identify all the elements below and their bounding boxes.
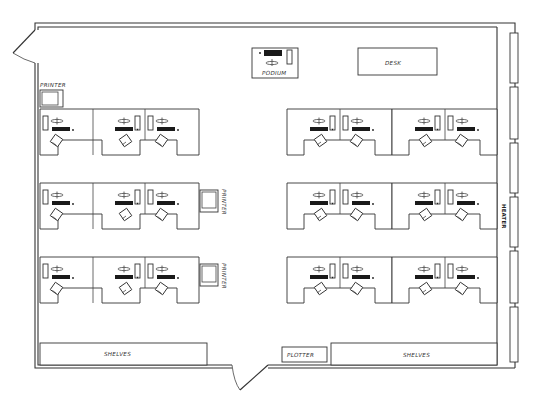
workstation-pod-right-row-3a — [287, 257, 392, 303]
workstation-pod-right-row-2a — [287, 183, 392, 229]
workstation-pod-left-row-1 — [40, 109, 199, 155]
printer-middle-2: PRINTER — [200, 263, 227, 289]
workstation-pod-right-row-1a — [287, 109, 392, 155]
workstation-pod-right-row-3b — [392, 257, 497, 303]
printer-label: PRINTER — [221, 189, 227, 215]
plotter-label: PLOTTER — [287, 352, 314, 358]
heater-label: HEATER — [501, 204, 507, 229]
workstation-pod-right-row-2b — [392, 183, 497, 229]
door-bottom[interactable] — [232, 365, 268, 390]
printer-label: PRINTER — [221, 263, 227, 289]
workstation-pod-left-row-2 — [40, 183, 199, 229]
desk-label: DESK — [385, 60, 402, 66]
workstation-pod-right-row-1b — [392, 109, 497, 155]
right-wall-windows — [510, 33, 518, 362]
shelves-left: SHELVES — [40, 343, 207, 365]
door-top-left[interactable] — [13, 30, 35, 63]
plotter: PLOTTER — [282, 347, 327, 362]
desk: DESK — [358, 48, 437, 75]
workstation-pod-left-row-3 — [40, 257, 199, 303]
shelves-label: SHELVES — [403, 352, 430, 358]
printer-middle-1: PRINTER — [200, 189, 227, 215]
podium-label: PODIUM — [262, 70, 286, 76]
shelves-right: SHELVES — [331, 343, 497, 365]
printer-top-left: PRINTER — [40, 82, 66, 107]
shelves-label: SHELVES — [104, 351, 131, 357]
podium: PODIUM — [252, 48, 298, 78]
floor-plan: PODIUM DESK PRINTER PRINTER PRINTER HEAT… — [0, 0, 538, 399]
printer-label: PRINTER — [40, 82, 66, 88]
